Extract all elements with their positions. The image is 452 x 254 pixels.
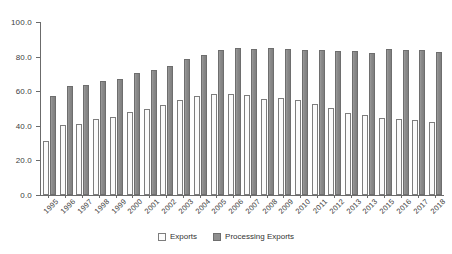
- bar-exports: [60, 125, 66, 195]
- bar-exports: [412, 120, 418, 195]
- x-tick-label: 2015: [378, 197, 397, 216]
- bar-processing-exports: [50, 96, 56, 195]
- bar-group: [429, 22, 443, 195]
- bar-processing-exports: [302, 50, 308, 195]
- x-tick-label: 2003: [176, 197, 195, 216]
- y-tick-label: 60.0: [16, 87, 32, 96]
- x-tick-label: 2009: [277, 197, 296, 216]
- x-axis-labels: 1995199619971998199920002001200220032004…: [41, 197, 444, 233]
- bar-exports: [160, 105, 166, 195]
- x-tick-label: 2018: [428, 197, 447, 216]
- bar-processing-exports: [352, 51, 358, 195]
- bar-group: [93, 22, 107, 195]
- legend-swatch-processing-exports-icon: [213, 233, 221, 241]
- bar-exports: [429, 122, 435, 195]
- x-tick-label: 2008: [260, 197, 279, 216]
- bar-group: [228, 22, 242, 195]
- y-tick-label: 40.0: [16, 121, 32, 130]
- bar-processing-exports: [285, 49, 291, 195]
- bar-processing-exports: [369, 53, 375, 195]
- x-tick-label: 2017: [411, 197, 430, 216]
- x-tick-label: 2004: [193, 197, 212, 216]
- bar-exports: [93, 119, 99, 195]
- bar-processing-exports: [386, 49, 392, 195]
- legend-label: Processing Exports: [225, 232, 294, 241]
- bar-exports: [379, 118, 385, 196]
- bar-processing-exports: [268, 48, 274, 195]
- bar-exports: [127, 112, 133, 195]
- y-tick-mark: [36, 160, 40, 161]
- y-tick-mark: [36, 22, 40, 23]
- bar-group: [127, 22, 141, 195]
- bar-exports: [328, 108, 334, 195]
- y-tick-label: 0.0: [20, 191, 32, 200]
- bar-processing-exports: [319, 50, 325, 195]
- bar-group: [278, 22, 292, 195]
- x-tick-label: 1997: [76, 197, 95, 216]
- x-tick-label: 2002: [160, 197, 179, 216]
- bar-exports: [396, 119, 402, 195]
- bar-group: [345, 22, 359, 195]
- legend-item[interactable]: Exports: [158, 232, 197, 241]
- bar-exports: [312, 104, 318, 195]
- bar-group: [328, 22, 342, 195]
- bar-processing-exports: [251, 49, 257, 195]
- bar-processing-exports: [403, 50, 409, 195]
- bar-group: [312, 22, 326, 195]
- bar-group: [379, 22, 393, 195]
- x-tick-label: 2007: [244, 197, 263, 216]
- bar-group: [43, 22, 57, 195]
- bar-group: [412, 22, 426, 195]
- bar-processing-exports: [218, 50, 224, 195]
- x-tick-label: 2013: [361, 197, 380, 216]
- bar-group: [177, 22, 191, 195]
- x-tick-label: 2012: [327, 197, 346, 216]
- bar-group: [244, 22, 258, 195]
- bar-processing-exports: [83, 85, 89, 195]
- x-tick-label: 1999: [109, 197, 128, 216]
- bar-group: [295, 22, 309, 195]
- bar-processing-exports: [151, 70, 157, 195]
- bar-group: [60, 22, 74, 195]
- bar-exports: [177, 100, 183, 195]
- plot-area: [40, 22, 444, 195]
- legend-label: Exports: [170, 232, 197, 241]
- x-tick-label: 2006: [227, 197, 246, 216]
- y-tick-label: 20.0: [16, 156, 32, 165]
- bar-exports: [43, 141, 49, 195]
- bar-exports: [261, 99, 267, 195]
- bar-exports: [194, 96, 200, 195]
- bar-processing-exports: [201, 55, 207, 195]
- x-tick-label: 2001: [143, 197, 162, 216]
- bar-group: [261, 22, 275, 195]
- bar-processing-exports: [436, 52, 442, 195]
- bar-processing-exports: [117, 79, 123, 195]
- x-tick-label: 2005: [210, 197, 229, 216]
- bar-exports: [362, 115, 368, 195]
- bar-group: [194, 22, 208, 195]
- chart-legend: ExportsProcessing Exports: [0, 232, 452, 241]
- x-tick-label: 1995: [42, 197, 61, 216]
- y-tick-label: 80.0: [16, 52, 32, 61]
- legend-item[interactable]: Processing Exports: [213, 232, 294, 241]
- bar-exports: [76, 124, 82, 195]
- x-tick-label: 1996: [59, 197, 78, 216]
- bar-exports: [278, 98, 284, 195]
- x-tick-label: 2000: [126, 197, 145, 216]
- x-tick-label: 2010: [294, 197, 313, 216]
- y-tick-mark: [36, 57, 40, 58]
- bar-processing-exports: [100, 81, 106, 195]
- bar-exports: [295, 100, 301, 195]
- bar-processing-exports: [235, 48, 241, 195]
- bar-group: [160, 22, 174, 195]
- y-tick-mark: [36, 91, 40, 92]
- bar-group: [144, 22, 158, 195]
- bar-group: [76, 22, 90, 195]
- x-tick-label: 2013: [344, 197, 363, 216]
- bar-processing-exports: [419, 50, 425, 195]
- x-tick-label: 1998: [92, 197, 111, 216]
- bar-processing-exports: [184, 59, 190, 195]
- bar-processing-exports: [167, 66, 173, 195]
- bar-group: [362, 22, 376, 195]
- bar-processing-exports: [67, 86, 73, 195]
